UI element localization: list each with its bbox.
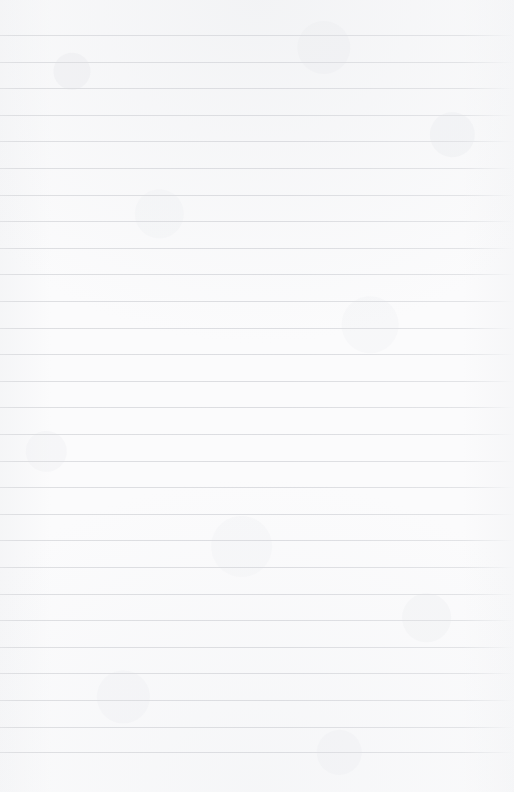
page-content-area[interactable] (0, 0, 514, 792)
notebook-page (0, 0, 514, 792)
